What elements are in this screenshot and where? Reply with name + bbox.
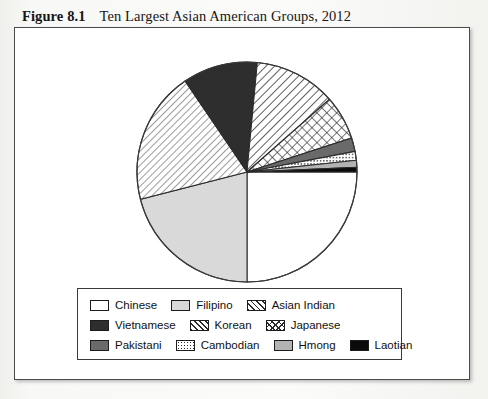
legend-swatch-vietnamese [90, 320, 109, 331]
legend-item-japanese[interactable]: Japanese [266, 319, 355, 331]
legend-label-vietnamese: Vietnamese [115, 319, 176, 331]
legend-label-chinese: Chinese [115, 299, 157, 311]
legend-label-japanese: Japanese [291, 319, 341, 331]
legend-swatch-hmong [274, 340, 293, 351]
legend-swatch-laotian [350, 340, 369, 351]
legend-label-pakistani: Pakistani [115, 339, 162, 351]
legend-swatch-asian-indian [247, 300, 266, 311]
legend-swatch-chinese [90, 300, 109, 311]
figure-page: Figure 8.1Ten Largest Asian American Gro… [0, 0, 488, 399]
legend-swatch-pakistani [90, 340, 109, 351]
legend-item-asian-indian[interactable]: Asian Indian [247, 299, 349, 311]
legend-label-cambodian: Cambodian [201, 339, 260, 351]
legend-row: Pakistani Cambodian Hmong Laotian [78, 335, 401, 355]
legend-label-laotian: Laotian [375, 339, 413, 351]
legend-swatch-japanese [266, 320, 285, 331]
figure-caption: Figure 8.1Ten Largest Asian American Gro… [22, 8, 351, 25]
legend-item-cambodian[interactable]: Cambodian [176, 339, 274, 351]
legend-label-hmong: Hmong [299, 339, 336, 351]
figure-frame: Chinese Filipino Asian Indian Vietnamese [14, 27, 470, 380]
legend-item-vietnamese[interactable]: Vietnamese [90, 319, 190, 331]
pie-slice-chinese[interactable] [247, 172, 357, 282]
pie-chart: Chinese Filipino Asian Indian Vietnamese [15, 28, 471, 381]
legend-swatch-cambodian [176, 340, 195, 351]
legend-label-filipino: Filipino [196, 299, 232, 311]
legend-item-laotian[interactable]: Laotian [350, 339, 427, 351]
legend-item-filipino[interactable]: Filipino [171, 299, 246, 311]
legend-swatch-korean [190, 320, 209, 331]
figure-title: Ten Largest Asian American Groups, 2012 [100, 8, 351, 24]
legend-swatch-filipino [171, 300, 190, 311]
pie-slices [137, 62, 357, 282]
figure-number: Figure 8.1 [22, 8, 86, 24]
legend-row: Vietnamese Korean Japanese [78, 315, 401, 335]
legend-item-hmong[interactable]: Hmong [274, 339, 350, 351]
chart-legend: Chinese Filipino Asian Indian Vietnamese [77, 288, 402, 360]
legend-label-korean: Korean [215, 319, 252, 331]
legend-label-asian-indian: Asian Indian [272, 299, 335, 311]
legend-item-chinese[interactable]: Chinese [90, 299, 171, 311]
legend-row: Chinese Filipino Asian Indian [78, 295, 401, 315]
legend-item-pakistani[interactable]: Pakistani [90, 339, 176, 351]
legend-item-korean[interactable]: Korean [190, 319, 266, 331]
